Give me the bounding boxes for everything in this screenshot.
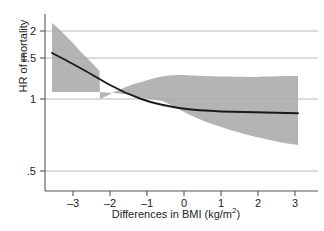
- y-axis-title: HR of mortality: [17, 0, 29, 121]
- x-axis-title-tail: ): [237, 208, 241, 220]
- y-tick-label-0.5: .5: [8, 166, 36, 177]
- chart-figure: 2 1.5 1 .5 –3 –2 –1 0 1 2 3 HR of mortal…: [0, 0, 324, 231]
- x-axis-title-main: Differences in BMI (kg/m: [112, 208, 232, 220]
- chart-plot-area: [0, 0, 324, 231]
- x-tick-marks: [73, 191, 295, 196]
- x-axis-title: Differences in BMI (kg/m2): [45, 208, 307, 220]
- confidence-band: [52, 23, 298, 145]
- y-tick-marks: [40, 31, 45, 171]
